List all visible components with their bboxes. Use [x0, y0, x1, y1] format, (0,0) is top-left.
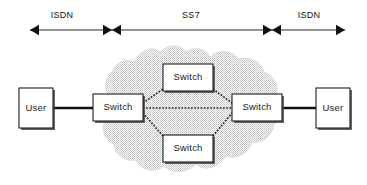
arrow-head-start — [30, 25, 39, 35]
node-label: User — [323, 102, 344, 113]
arrow-head-end — [103, 25, 112, 35]
arrow-head-start — [272, 25, 281, 35]
arrow-head-end — [263, 25, 272, 35]
node-label: Switch — [173, 71, 202, 82]
node-user-left[interactable]: User — [19, 88, 55, 130]
span-ss7-1: SS7 — [112, 10, 272, 35]
node-user-right[interactable]: User — [316, 88, 352, 130]
node-label: User — [26, 102, 47, 113]
span-label-isdn: ISDN — [298, 10, 321, 20]
arrow-head-end — [336, 25, 345, 35]
diagram-canvas: ISDNSS7ISDN UserSwitchSwitchSwitchSwitch… — [0, 0, 367, 185]
span-isdn-0: ISDN — [30, 10, 112, 35]
span-label-ss7: SS7 — [182, 10, 200, 20]
node-switch-left[interactable]: Switch — [93, 94, 145, 123]
network-diagram: ISDNSS7ISDN UserSwitchSwitchSwitchSwitch… — [0, 0, 367, 185]
arrow-head-start — [112, 25, 121, 35]
node-label: Switch — [103, 101, 132, 112]
node-switch-right[interactable]: Switch — [232, 94, 284, 123]
node-switch-bottom[interactable]: Switch — [163, 135, 215, 164]
span-arrows-group: ISDNSS7ISDN — [30, 10, 345, 35]
node-switch-top[interactable]: Switch — [163, 64, 215, 93]
node-label: Switch — [173, 142, 202, 153]
node-label: Switch — [242, 101, 271, 112]
span-isdn-2: ISDN — [272, 10, 345, 35]
span-label-isdn: ISDN — [51, 10, 74, 20]
